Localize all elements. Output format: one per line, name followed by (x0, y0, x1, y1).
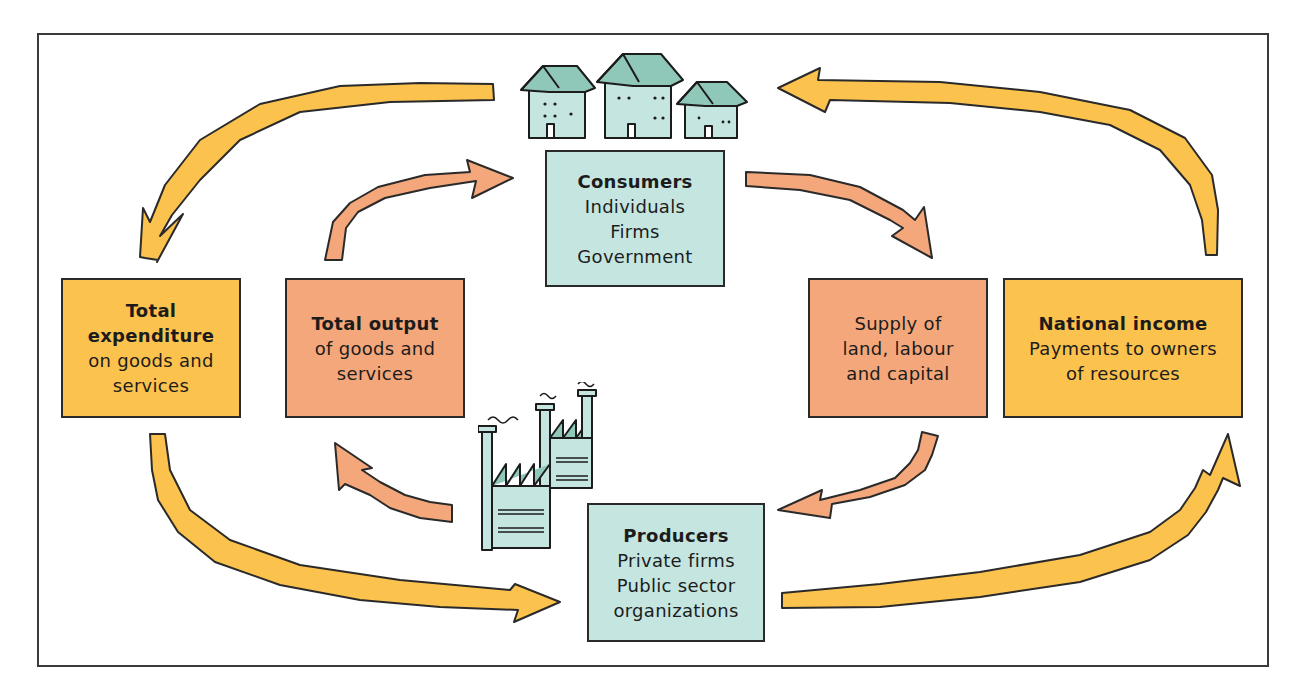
consumers-line: Individuals (585, 194, 685, 219)
consumers-box: Consumers Individuals Firms Government (545, 150, 725, 287)
producers-line: Private firms (617, 548, 735, 573)
houses-icon (515, 48, 750, 140)
arrow-producers-to-output (335, 443, 452, 522)
arrow-consumers-to-supply (746, 172, 932, 258)
factory-icon (478, 382, 598, 552)
total-expenditure-title: Total (126, 298, 177, 323)
supply-line: land, labour (842, 336, 953, 361)
producers-title: Producers (623, 523, 728, 548)
supply-line: Supply of (854, 311, 941, 336)
producers-line: organizations (613, 598, 738, 623)
total-expenditure-box: Total expenditure on goods and services (61, 278, 241, 418)
national-income-title: National income (1038, 311, 1207, 336)
consumers-title: Consumers (577, 169, 692, 194)
arrow-output-to-consumers (325, 160, 513, 260)
total-output-line: services (337, 361, 413, 386)
consumers-line: Firms (610, 219, 660, 244)
national-income-line: of resources (1066, 361, 1180, 386)
total-expenditure-line: services (113, 373, 189, 398)
arrow-consumers-to-expenditure (140, 83, 494, 262)
producers-line: Public sector (617, 573, 736, 598)
total-expenditure-title: expenditure (88, 323, 215, 348)
producers-box: Producers Private firms Public sector or… (587, 503, 765, 642)
arrow-income-to-consumers (778, 68, 1218, 255)
total-output-box: Total output of goods and services (285, 278, 465, 418)
arrow-producers-to-income (782, 434, 1240, 608)
national-income-box: National income Payments to owners of re… (1003, 278, 1243, 418)
supply-of-factors-box: Supply of land, labour and capital (808, 278, 988, 418)
total-output-line: of goods and (315, 336, 436, 361)
total-expenditure-line: on goods and (88, 348, 214, 373)
consumers-line: Government (577, 244, 692, 269)
supply-line: and capital (846, 361, 949, 386)
total-output-title: Total output (311, 311, 438, 336)
arrow-supply-to-producers (778, 432, 938, 518)
national-income-line: Payments to owners (1029, 336, 1217, 361)
